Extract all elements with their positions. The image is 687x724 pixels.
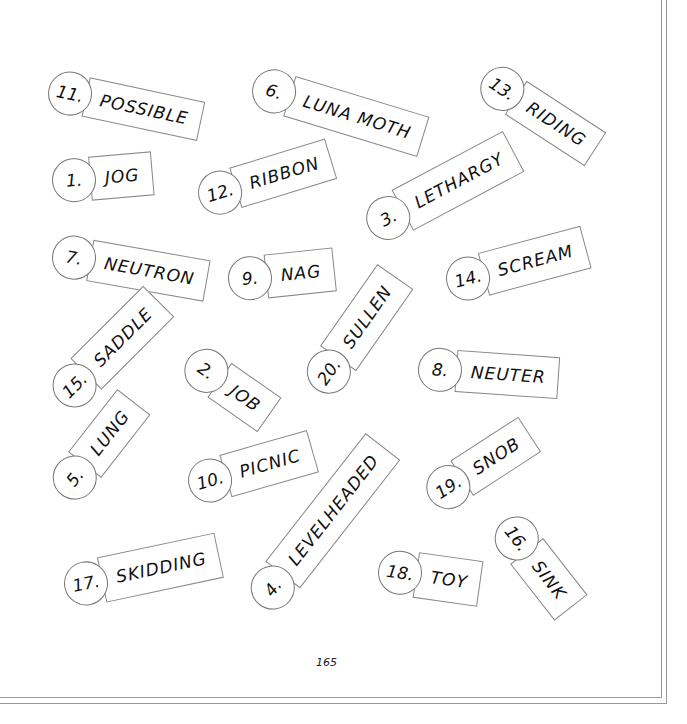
tag-word: JOG [88,151,154,200]
tag-word: PICNIC [219,430,318,497]
page-number: 165 [316,656,337,669]
word-tag: 8. NEUTER [417,346,561,400]
word-tag: 2. JOB [176,340,282,433]
word-tag: 1. JOG [50,151,154,204]
frame-border-bottom-inner [0,697,662,698]
word-tag: 12. RIBBON [193,138,338,220]
word-tag: 9. NAG [226,247,337,302]
word-tag: 11. POSSIBLE [44,67,205,142]
tag-word: POSSIBLE [82,77,205,141]
tag-word: NEUTER [455,350,561,399]
word-tag: 14. SCREAM [441,226,591,306]
frame-border-right-inner [661,0,662,698]
word-tag: 7. NEUTRON [49,232,211,303]
tag-word: SKIDDING [97,533,224,603]
tag-word: RIBBON [229,139,337,208]
frame-border-right-outer [666,0,667,704]
word-tag: 16. SINK [486,508,588,622]
word-tag: 19. SNOB [418,416,541,517]
word-tag: 10. PICNIC [183,430,319,508]
word-tag: 17. SKIDDING [60,533,224,611]
tag-word: SCREAM [478,226,591,296]
word-tag: 3. LETHARGY [358,131,525,249]
tag-word: NAG [264,247,337,298]
word-tag: 5. LUNG [44,389,151,509]
frame-border-bottom-outer [0,703,667,704]
tag-word: TOY [413,552,484,607]
word-tag: 18. TOY [375,547,484,607]
word-tag: 6. LUNA MOTH [247,64,430,158]
